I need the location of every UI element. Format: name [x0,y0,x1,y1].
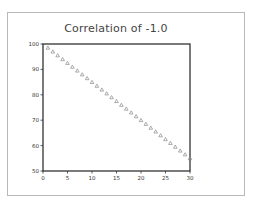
triangle-marker-icon [90,80,94,83]
scatter-plot: 051015202530 5060708090100 [0,0,258,203]
triangle-marker-icon [46,46,50,49]
triangle-marker-icon [51,50,55,53]
triangle-marker-icon [139,118,143,121]
triangle-marker-icon [95,84,99,87]
y-tick-label: 70 [32,117,39,123]
triangle-marker-icon [183,153,187,156]
triangle-marker-icon [85,76,89,79]
triangle-marker-icon [61,57,65,60]
triangle-marker-icon [159,134,163,137]
triangle-marker-icon [105,92,109,95]
triangle-marker-icon [80,73,84,76]
triangle-marker-icon [76,69,80,72]
triangle-marker-icon [110,96,114,99]
triangle-marker-icon [154,130,158,133]
plot-area [43,44,190,171]
x-tick-label: 20 [138,175,145,181]
x-tick-label: 30 [187,175,194,181]
triangle-marker-icon [100,88,104,91]
triangle-marker-icon [120,103,124,106]
x-tick-label: 15 [113,175,120,181]
triangle-marker-icon [169,141,173,144]
triangle-marker-icon [144,122,148,125]
y-tick-label: 60 [32,143,39,149]
triangle-marker-icon [66,61,70,64]
x-tick-label: 5 [66,175,70,181]
y-tick-label: 90 [32,66,39,72]
y-axis: 5060708090100 [29,41,44,174]
x-tick-label: 10 [89,175,96,181]
triangle-marker-icon [71,65,75,68]
triangle-marker-icon [115,99,119,102]
x-tick-label: 0 [41,175,45,181]
triangle-marker-icon [174,145,178,148]
triangle-marker-icon [125,107,129,110]
y-tick-label: 80 [32,92,39,98]
triangle-marker-icon [134,115,138,118]
y-tick-label: 100 [29,41,40,47]
x-tick-label: 25 [162,175,169,181]
triangle-marker-icon [129,111,133,114]
triangle-marker-icon [149,126,153,129]
triangle-marker-icon [164,137,168,140]
data-points [46,46,192,160]
triangle-marker-icon [178,149,182,152]
y-tick-label: 50 [32,168,39,174]
triangle-marker-icon [56,54,60,57]
x-axis: 051015202530 [41,171,194,181]
